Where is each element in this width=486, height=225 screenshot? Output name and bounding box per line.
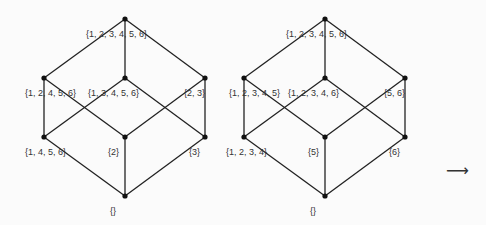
node-label: {2, 3} xyxy=(184,88,205,98)
node-dot xyxy=(241,75,246,80)
node-label: {5} xyxy=(308,147,319,157)
node-dot xyxy=(122,16,127,21)
edge-line xyxy=(244,19,325,78)
node-label: {3} xyxy=(189,147,200,157)
node-label: {6} xyxy=(389,147,400,157)
node-label: {1, 2, 3, 4, 5} xyxy=(229,88,280,98)
node-dot xyxy=(122,134,127,139)
node-dot xyxy=(202,134,207,139)
arrow-right-icon: ⟶ xyxy=(446,163,469,179)
node-label: {} xyxy=(310,206,316,216)
node-label: {1, 3, 4, 5, 6} xyxy=(88,88,139,98)
node-label: {1, 2, 3, 4, 6} xyxy=(288,88,339,98)
node-dot xyxy=(322,75,327,80)
node-label: {1, 2, 3, 4} xyxy=(226,147,267,157)
hasse-diagram-edges xyxy=(0,0,486,225)
node-dot xyxy=(41,75,46,80)
node-label: {1, 2, 3, 4, 5, 6} xyxy=(86,29,147,39)
node-label: {1, 2, 3, 4, 5, 6} xyxy=(286,29,347,39)
node-dot xyxy=(322,134,327,139)
node-label: {5, 6} xyxy=(384,88,405,98)
edge-line xyxy=(125,19,205,78)
edge-line xyxy=(125,137,205,196)
node-dot xyxy=(402,134,407,139)
edge-line xyxy=(44,137,125,196)
node-label: {2} xyxy=(108,147,119,157)
node-dot xyxy=(122,193,127,198)
lattice-diagram-canvas: {1, 2, 3, 4, 5, 6}{1, 2, 4, 5, 6}{1, 3, … xyxy=(0,0,486,225)
node-dot xyxy=(322,16,327,21)
edge-line xyxy=(325,137,405,196)
node-dot xyxy=(41,134,46,139)
node-label: {1, 4, 5, 6} xyxy=(25,147,66,157)
node-dot xyxy=(322,193,327,198)
left-lattice xyxy=(41,16,207,198)
node-dot xyxy=(241,134,246,139)
node-label: {1, 2, 4, 5, 6} xyxy=(25,88,76,98)
right-lattice xyxy=(241,16,407,198)
node-dot xyxy=(202,75,207,80)
edge-line xyxy=(44,19,125,78)
node-dot xyxy=(402,75,407,80)
edge-line xyxy=(244,137,325,196)
node-dot xyxy=(122,75,127,80)
node-label: {} xyxy=(110,206,116,216)
edge-line xyxy=(325,19,405,78)
